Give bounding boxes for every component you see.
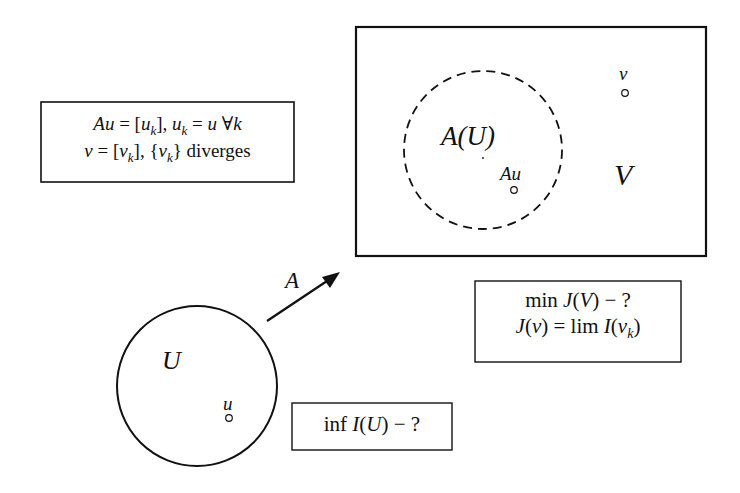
- space-u-label: U: [162, 346, 181, 376]
- mapping-arrow-head-icon: [322, 272, 340, 288]
- min-box: min J(V) − ? J(v) = lim I(vk): [475, 287, 681, 343]
- mapping-label: A: [285, 268, 299, 294]
- point-u-marker: [226, 415, 233, 422]
- center-dot: [482, 157, 484, 159]
- definition-line-2: v = [vk], {vk} diverges: [41, 139, 294, 166]
- min-line-1: min J(V) − ?: [475, 287, 681, 313]
- point-u-label: u: [223, 393, 233, 415]
- point-au-marker: [511, 187, 518, 194]
- image-point-label: Au: [500, 163, 521, 185]
- space-u-circle: [117, 306, 277, 466]
- space-v-rectangle: [356, 27, 706, 256]
- definition-line-1: Au = [uk], uk = u ∀k: [41, 112, 294, 139]
- space-v-label: V: [614, 158, 632, 192]
- point-v-label: v: [619, 63, 627, 85]
- point-v-marker: [622, 90, 629, 97]
- inf-box: inf I(U) − ?: [292, 411, 452, 437]
- min-line-2: J(v) = lim I(vk): [475, 313, 681, 343]
- definition-box: Au = [uk], uk = u ∀k v = [vk], {vk} dive…: [41, 112, 294, 166]
- image-set-label: A(U): [441, 121, 495, 152]
